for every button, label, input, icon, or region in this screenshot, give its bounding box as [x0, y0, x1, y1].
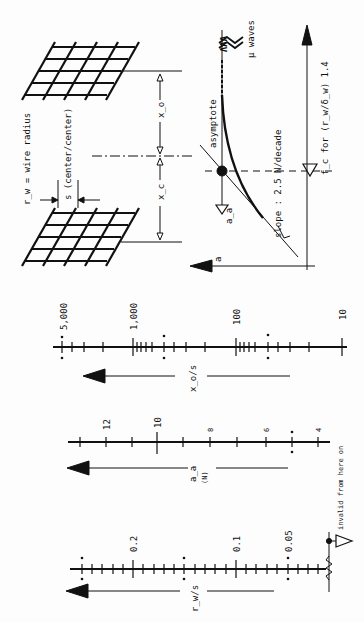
- invalid-annotation: invalid from here on: [337, 446, 345, 530]
- tick-label-1000: 1,000: [129, 303, 139, 330]
- tick-label-10: 10: [338, 309, 348, 320]
- waves-symbol: VVV: [218, 36, 228, 53]
- scale-rw-s: [70, 532, 352, 592]
- scale-rw-s-label: r_w/s: [190, 585, 200, 612]
- wire-mesh-bottom: [22, 208, 139, 266]
- a-a-label: a_a: [224, 208, 234, 224]
- distance-dimensions: [157, 74, 163, 240]
- waves-label: μ waves: [246, 20, 256, 58]
- slope-label: slope : 2.5 N/decade: [273, 130, 283, 238]
- scale-aa-unit: (N): [201, 471, 209, 484]
- tick-label-5000: 5,000: [59, 303, 69, 330]
- asymptote-label: asymptote: [208, 99, 218, 148]
- scale-xo-s: [53, 334, 347, 360]
- tick-label-4: 4: [315, 428, 323, 432]
- wire-radius-label: r_w = wire radius: [22, 113, 32, 205]
- tick-label-12: 12: [102, 419, 112, 430]
- scale-xo-s-direction-arrow: [83, 369, 290, 383]
- scale-aa-label: a_a: [188, 466, 198, 482]
- cutoff-frequency-label: f_c for (r_w/δ_w) 1.4: [320, 61, 330, 175]
- scale-aa: [68, 431, 330, 454]
- diagram-canvas: r_w = wire radius s (center/center) x_o …: [0, 0, 364, 623]
- tick-label-0-1: 0.1: [232, 536, 242, 552]
- scale-xo-s-label: x_o/s: [188, 365, 198, 392]
- x-o-label: x_o: [156, 102, 166, 118]
- tick-label-10: 10: [153, 417, 163, 428]
- spacing-label: s (center/center): [63, 108, 73, 200]
- scale-aa-direction-arrow: [67, 461, 288, 475]
- tick-label-8: 8: [207, 428, 215, 432]
- nomogram-figure: r_w = wire radius s (center/center) x_o …: [0, 0, 364, 623]
- scale-rw-s-direction-arrow: [66, 584, 274, 598]
- a-axis-label: a: [213, 257, 223, 262]
- tick-label-6: 6: [263, 428, 271, 432]
- tick-label-0-2: 0.2: [129, 536, 139, 552]
- x-c-label: x_c: [156, 184, 166, 200]
- tick-label-100: 100: [232, 309, 242, 325]
- tick-label-0-05: 0.05: [284, 530, 294, 552]
